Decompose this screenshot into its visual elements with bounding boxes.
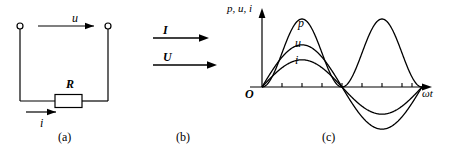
voltage-label-u: u (72, 12, 78, 24)
terminal-right-icon (105, 23, 111, 29)
phasor-current-arrowhead-icon (199, 34, 209, 42)
caption-panel-c: (c) (322, 131, 335, 143)
phasor-label-I: I (163, 24, 168, 36)
voltage-arrow-head-icon (85, 23, 94, 29)
figure-container: u R i (a) I U (b) (0, 0, 453, 160)
terminal-left-icon (17, 23, 23, 29)
curve-label-i: i (295, 54, 298, 66)
panel-circuit-diagram: u R i (a) (0, 0, 145, 160)
y-axis-arrowhead-icon (259, 8, 266, 18)
phasor-voltage-arrowhead-icon (207, 61, 217, 69)
phasor-label-U: U (163, 51, 172, 63)
caption-panel-b: (b) (176, 131, 190, 143)
x-axis-label: ωt (422, 88, 433, 99)
y-axis-label: p, u, i (227, 3, 252, 14)
resistor-label-R: R (66, 78, 74, 90)
caption-panel-a: (a) (58, 131, 71, 143)
current-label-i: i (40, 117, 43, 129)
panel-waveform-graph: p, u, i ωt O p u i (c) (240, 0, 453, 160)
phasor-svg (145, 0, 240, 160)
resistor-symbol (55, 95, 82, 108)
panel-phasor-diagram: I U (b) (145, 0, 240, 160)
current-arrow-head-icon (47, 109, 56, 115)
curve-label-p: p (298, 17, 304, 29)
waveform-svg (240, 0, 453, 160)
curve-label-u: u (295, 37, 301, 49)
origin-label: O (245, 88, 254, 100)
